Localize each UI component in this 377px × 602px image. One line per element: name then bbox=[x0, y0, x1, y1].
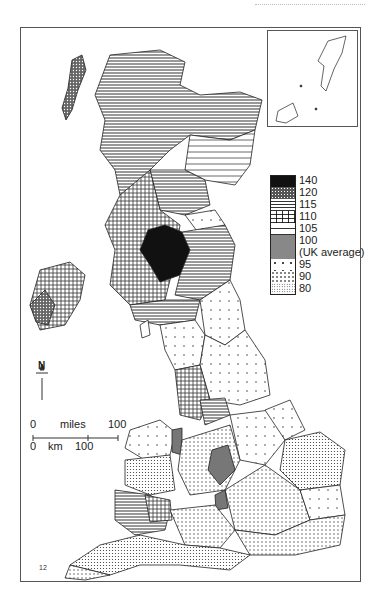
region-manchester bbox=[200, 398, 230, 425]
legend-item-115: 115 bbox=[270, 199, 364, 211]
legend-item-uk-average: (UK average) bbox=[270, 247, 364, 259]
scale-labels: 0 miles 100 0 km 100 bbox=[30, 418, 140, 454]
swatch-105 bbox=[270, 223, 296, 235]
swatch-uk-average bbox=[270, 247, 296, 259]
legend-item-80: 80 bbox=[270, 283, 364, 295]
scale-km-zero: 0 bbox=[30, 440, 36, 452]
region-mid-wales bbox=[125, 455, 175, 495]
legend-item-105: 105 bbox=[270, 223, 364, 235]
region-cumbria bbox=[160, 320, 205, 370]
region-isle-of-man bbox=[140, 320, 150, 338]
scale-miles-max: 100 bbox=[108, 418, 126, 430]
swatch-90 bbox=[270, 271, 296, 283]
swatch-95 bbox=[270, 259, 296, 271]
scale-km-max: 100 bbox=[75, 440, 93, 452]
legend-item-95: 95 bbox=[270, 259, 364, 271]
legend-item-110: 110 bbox=[270, 211, 364, 223]
legend-item-120: 120 bbox=[270, 187, 364, 199]
shetland-inset bbox=[267, 30, 358, 127]
scale-miles-label: miles bbox=[60, 418, 86, 430]
swatch-100 bbox=[270, 235, 296, 247]
legend-item-90: 90 bbox=[270, 271, 364, 283]
region-outer-hebrides bbox=[62, 55, 86, 120]
swatch-120 bbox=[270, 187, 296, 199]
inset-shetland bbox=[318, 36, 346, 91]
legend: 140 120 115 110 105 100 (UK average) 95 … bbox=[270, 175, 364, 295]
scale-km-label: km bbox=[48, 440, 63, 452]
legend-item-140: 140 bbox=[270, 175, 364, 187]
swatch-80 bbox=[270, 283, 296, 295]
inset-orkney bbox=[276, 103, 298, 123]
region-yorkshire bbox=[200, 330, 270, 405]
scale-miles-zero: 0 bbox=[30, 418, 36, 430]
north-label: N bbox=[38, 360, 45, 371]
swatch-140 bbox=[270, 175, 296, 187]
region-east-anglia bbox=[280, 432, 345, 490]
region-cardiff bbox=[145, 495, 172, 522]
region-gloucester-avon bbox=[170, 505, 235, 548]
swatch-115 bbox=[270, 199, 296, 211]
swatch-110 bbox=[270, 211, 296, 223]
footnote-mark: 12 bbox=[39, 564, 47, 571]
